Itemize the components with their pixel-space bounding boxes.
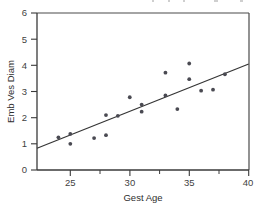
x-tick-label: 40 xyxy=(243,177,254,188)
data-point xyxy=(164,94,168,98)
data-point xyxy=(187,77,191,81)
data-point xyxy=(140,103,144,107)
data-point xyxy=(199,89,203,93)
scatter-marker-group xyxy=(57,62,227,146)
data-point xyxy=(57,135,61,139)
data-point xyxy=(187,62,191,66)
x-tick-label: 25 xyxy=(65,177,76,188)
scatter-plot-figure: 0 1 2 3 4 5 6 25 30 35 40 Gest Age Emb V xyxy=(0,0,258,205)
y-tick-label: 6 xyxy=(22,7,27,18)
x-tick-label: 30 xyxy=(125,177,136,188)
data-point xyxy=(68,132,72,136)
x-axis-title: Gest Age xyxy=(123,192,162,203)
y-axis-tick-labels: 0 1 2 3 4 5 6 xyxy=(22,7,27,175)
data-point xyxy=(68,142,72,146)
data-point xyxy=(104,133,108,137)
data-point xyxy=(164,71,168,75)
data-point xyxy=(140,110,144,114)
data-point xyxy=(128,95,132,99)
data-point xyxy=(104,113,108,117)
data-point xyxy=(175,107,179,111)
cut-off-caption-remnant xyxy=(152,0,243,2)
y-tick-label: 1 xyxy=(22,138,27,149)
data-point xyxy=(211,88,215,92)
plot-canvas: 0 1 2 3 4 5 6 25 30 35 40 Gest Age Emb V xyxy=(0,0,258,205)
y-tick-label: 2 xyxy=(22,112,27,123)
regression-fit-line xyxy=(37,64,249,148)
y-tick-label: 3 xyxy=(22,86,27,97)
y-axis-ticks xyxy=(31,13,37,170)
x-tick-label: 35 xyxy=(184,177,195,188)
x-axis-tick-labels: 25 30 35 40 xyxy=(65,177,253,188)
data-point xyxy=(223,72,227,76)
data-point xyxy=(92,136,96,140)
data-point xyxy=(116,114,120,118)
y-tick-label: 5 xyxy=(22,34,27,45)
y-axis-title: Emb Ves Diam xyxy=(5,60,16,123)
y-tick-label: 0 xyxy=(22,164,27,175)
y-tick-label: 4 xyxy=(22,60,27,71)
x-axis-ticks xyxy=(70,170,248,176)
